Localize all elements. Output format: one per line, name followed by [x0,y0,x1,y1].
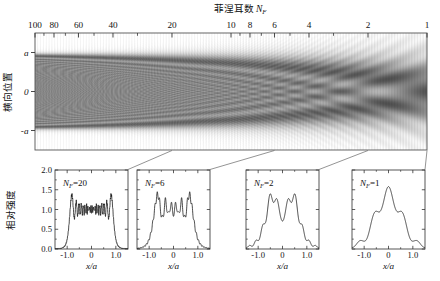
subplot-xaxis-label: x/a [167,261,180,271]
subplot-connector-line [319,151,368,170]
subplot-xtick-label: 0 [280,250,284,260]
subplot-label: NF=1 [359,178,380,189]
main-ytick-label: a [24,48,29,58]
subplot-label: NF=20 [62,178,87,189]
figure-canvas: 100806040201086421a0-a菲涅耳数 NF横向位置0.00.51… [0,0,440,281]
subplot-ytick-label: 0.5 [41,224,52,234]
main-xtick-label: 10 [226,20,236,30]
subplot-connector-line [128,151,172,170]
main-xtick-label: 2 [366,20,371,30]
subplot-xtick-label: -1.0 [60,250,74,260]
main-xtick-label: 6 [272,20,277,30]
main-xtick-label: 8 [248,20,253,30]
main-xtick-label: 40 [108,20,118,30]
fresnel-diffraction-figure: 100806040201086421a0-a菲涅耳数 NF横向位置0.00.51… [0,0,440,281]
main-axis-title: 菲涅耳数 NF [214,3,268,15]
subplot-xtick-label: 0 [386,250,390,260]
main-xtick-label: 1 [425,20,430,30]
subplot-connector-line [425,151,427,170]
subplot-xtick-label: -1.0 [142,250,156,260]
diffraction-heatmap [35,33,427,150]
main-xtick-label: 20 [167,20,177,30]
subplot-connector-line [210,151,274,170]
subplot-xaxis-label: x/a [276,261,289,271]
main-xtick-label: 100 [28,20,42,30]
subplot-xaxis-label: x/a [382,261,395,271]
main-yaxis-label: 横向位置 [2,72,13,112]
subplot-xtick-label: 0 [171,250,175,260]
subplot-label: NF=2 [253,178,274,189]
main-xtick-label: 80 [49,20,59,30]
subplot-label: NF=6 [144,178,165,189]
subplot-ytick-label: 1.5 [41,185,52,195]
subplot-xtick-label: -1.0 [357,250,371,260]
main-ytick-label: -a [21,126,29,136]
main-xtick-label: 60 [74,20,84,30]
subplot-xaxis-label: x/a [85,261,98,271]
main-xtick-label: 4 [307,20,312,30]
subplot-ytick-label: 0.0 [41,244,52,254]
subplot-xtick-label: 1.0 [407,250,418,260]
subplot-ytick-label: 2.0 [41,165,52,175]
main-ytick-label: 0 [24,87,29,97]
subplot-ytick-label: 1.0 [41,205,52,215]
subplot-xtick-label: 1.0 [110,250,121,260]
subplot-xtick-label: 1.0 [192,250,203,260]
subplot-yaxis-label: 相对强度 [5,190,16,230]
subplot-xtick-label: 0 [89,250,93,260]
subplot-xtick-label: 1.0 [301,250,312,260]
subplot-xtick-label: -1.0 [251,250,265,260]
